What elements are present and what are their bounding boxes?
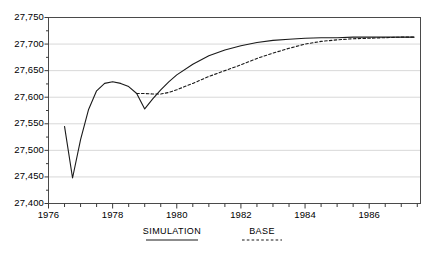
x-axis-label: 1982: [219, 210, 263, 220]
series-line-base: [137, 37, 414, 94]
y-axis-label: 27,500: [0, 145, 44, 155]
series-line-simulation: [65, 37, 415, 178]
plot-frame: [49, 18, 421, 204]
y-axis-label: 27,750: [0, 12, 44, 22]
legend-line-sample: [217, 236, 307, 244]
x-axis-label: 1976: [27, 210, 71, 220]
y-axis-label: 27,400: [0, 198, 44, 208]
y-axis-label: 27,600: [0, 92, 44, 102]
x-axis-label: 1984: [283, 210, 327, 220]
legend-line-sample: [127, 236, 217, 244]
chart-container: 27,40027,45027,50027,55027,60027,65027,7…: [0, 0, 438, 253]
y-axis-label: 27,700: [0, 39, 44, 49]
legend-label: BASE: [217, 226, 307, 236]
x-axis-label: 1980: [155, 210, 199, 220]
y-axis-label: 27,550: [0, 118, 44, 128]
legend-label: SIMULATION: [127, 226, 217, 236]
legend-item-base: BASE: [217, 226, 307, 244]
legend-item-simulation: SIMULATION: [127, 226, 217, 244]
x-axis-label: 1978: [91, 210, 135, 220]
y-axis-label: 27,450: [0, 171, 44, 181]
x-axis-label: 1986: [347, 210, 391, 220]
y-axis-label: 27,650: [0, 65, 44, 75]
